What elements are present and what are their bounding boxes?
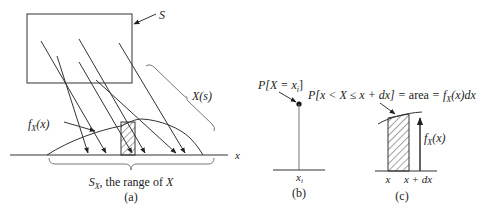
point-mass-pointer-arrow <box>279 92 296 102</box>
mapping-label: X(s) <box>191 89 212 103</box>
panel-c: P[x < X ≤ x + dx] = area = fX(x)dx fX(x)… <box>307 88 476 203</box>
interval-probability-equation: P[x < X ≤ x + dx] = area = fX(x)dx <box>307 88 476 104</box>
sample-space-label: S <box>159 8 165 22</box>
pdf-label: fX(x) <box>28 117 50 133</box>
sample-space-box <box>27 14 132 83</box>
panel-a: S X(s) fX(x) x SX, the range of X (a) <box>10 8 240 204</box>
caption-c: (c) <box>395 189 408 203</box>
mapping-arrows <box>41 39 185 153</box>
left-tick-label: x <box>385 173 391 185</box>
hatched-strip <box>121 122 135 155</box>
sample-space-pointer-arrow <box>134 14 156 24</box>
caption-a: (a) <box>124 190 137 204</box>
diagram-canvas: S X(s) fX(x) x SX, the range of X (a) P[… <box>0 0 492 211</box>
area-strip <box>388 114 409 171</box>
right-tick-label: x + dx <box>403 173 432 185</box>
point-mass-label: P[X = xi] <box>257 78 303 94</box>
point-label: xi <box>295 171 303 185</box>
area-pointer-arrow <box>380 103 395 114</box>
range-brace <box>49 158 214 170</box>
height-label: fX(x) <box>424 131 446 147</box>
x-axis-label: x <box>234 149 240 161</box>
range-label: SX, the range of X <box>89 175 174 191</box>
caption-b: (b) <box>292 186 306 200</box>
